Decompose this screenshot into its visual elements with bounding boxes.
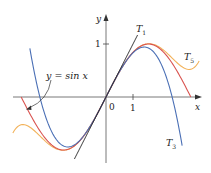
y-tick-label-1: 1 [95, 39, 101, 49]
y-axis-arrow-icon [104, 14, 109, 21]
sin-label: y = sin x [45, 70, 88, 81]
x-tick-label-1: 1 [130, 103, 136, 113]
t1-label: T1 [136, 23, 146, 36]
t5-label: T5 [184, 51, 194, 64]
t3-label: T3 [166, 137, 176, 150]
x-axis-arrow-icon [195, 95, 202, 100]
y-axis-label: y [95, 14, 102, 24]
taylor-polynomial-chart: y x 0 1 1 y = sin x T1 T5 T3 [0, 0, 211, 173]
sin-label-pointer [29, 80, 51, 108]
origin-label: 0 [109, 102, 115, 112]
x-axis-label: x [195, 102, 200, 112]
